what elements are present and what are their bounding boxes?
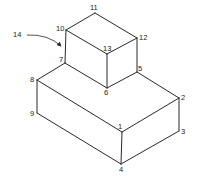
- vertex-label-3: 3: [181, 127, 185, 136]
- edge-1-4: [121, 132, 122, 164]
- vertex-label-4: 4: [119, 165, 123, 174]
- edge-6-5: [107, 72, 137, 88]
- block-diagram: 12345678910111213 14: [0, 0, 200, 189]
- edge-3-4: [121, 131, 179, 164]
- vertex-label-11: 11: [90, 3, 98, 12]
- callout-label-14: 14: [13, 30, 21, 39]
- vertex-label-7: 7: [59, 55, 63, 64]
- vertex-label-1: 1: [118, 122, 122, 131]
- edge-1-2: [122, 98, 179, 132]
- vertex-label-6: 6: [104, 88, 108, 97]
- edge-8-1: [37, 80, 122, 132]
- edge-13-10: [66, 30, 107, 54]
- vertex-label-10: 10: [56, 24, 64, 33]
- edge-2-5: [137, 72, 179, 98]
- vertex-label-5: 5: [138, 64, 142, 73]
- edge-10-11: [66, 13, 95, 30]
- callout-arrow: [27, 35, 61, 46]
- edge-12-13: [107, 38, 137, 54]
- vertex-label-12: 12: [139, 33, 147, 42]
- vertex-label-2: 2: [181, 93, 185, 102]
- edge-11-12: [95, 13, 137, 38]
- vertex-label-8: 8: [30, 75, 34, 84]
- vertex-label-13: 13: [103, 44, 111, 53]
- vertex-label-9: 9: [30, 109, 34, 118]
- vertex-labels: 12345678910111213: [30, 3, 185, 174]
- edge-10-7: [65, 30, 66, 63]
- edge-4-9: [37, 113, 121, 164]
- edge-8-7: [37, 63, 65, 80]
- edge-7-6: [65, 63, 107, 88]
